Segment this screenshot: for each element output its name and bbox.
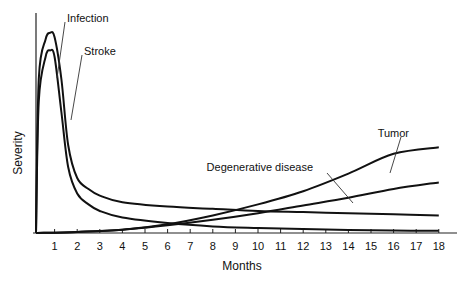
series-degenerative-disease [36, 182, 439, 233]
leader-line [71, 55, 82, 120]
x-tick-label: 18 [433, 240, 445, 252]
x-tick-label: 17 [410, 240, 422, 252]
x-axis-label: Months [222, 259, 261, 273]
x-tick-label: 13 [320, 240, 332, 252]
x-tick-label: 9 [232, 240, 238, 252]
y-axis-label: Severity [11, 131, 25, 174]
annotation-degenerative-disease: Degenerative disease [207, 161, 313, 173]
x-tick-label: 10 [252, 240, 264, 252]
x-tick-label: 11 [275, 240, 286, 252]
x-tick-label: 5 [142, 240, 148, 252]
x-tick-label: 8 [210, 240, 216, 252]
labels: InfectionStrokeTumorDegenerative disease [57, 12, 409, 203]
x-tick-label: 16 [387, 240, 399, 252]
x-tick-label: 14 [342, 240, 354, 252]
x-tick-label: 4 [119, 240, 125, 252]
annotation-stroke: Stroke [84, 45, 116, 57]
x-tick-label: 6 [165, 240, 171, 252]
x-tick-label: 3 [97, 240, 103, 252]
annotation-infection: Infection [67, 12, 109, 24]
annotation-tumor: Tumor [378, 127, 410, 139]
x-tick-label: 2 [74, 240, 80, 252]
series-stroke [36, 50, 439, 233]
axes: 123456789101112131415161718MonthsSeverit… [11, 13, 457, 273]
x-tick-label: 1 [52, 240, 58, 252]
x-tick-label: 15 [365, 240, 377, 252]
x-tick-label: 12 [297, 240, 309, 252]
x-tick-label: 7 [187, 240, 193, 252]
severity-chart: 123456789101112131415161718MonthsSeverit… [0, 0, 472, 282]
